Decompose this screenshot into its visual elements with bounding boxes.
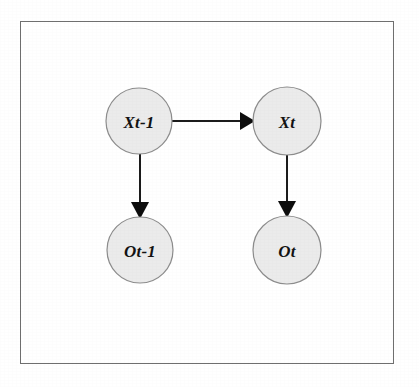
edge-x-prev-to-x-curr[interactable] (172, 112, 255, 130)
graph-canvas: Xt-1 Xt Ot-1 Ot (0, 0, 419, 387)
figure-root: Xt-1 Xt Ot-1 Ot (0, 0, 419, 387)
node-label-x-prev: Xt-1 (122, 113, 154, 132)
node-x-prev[interactable]: Xt-1 (106, 88, 172, 154)
node-o-curr[interactable]: Ot (253, 216, 321, 284)
edge-x-curr-to-o-curr[interactable] (278, 155, 296, 218)
node-o-prev[interactable]: Ot-1 (107, 217, 173, 283)
node-label-o-curr: Ot (278, 242, 296, 261)
node-label-x-curr: Xt (278, 113, 297, 132)
node-x-curr[interactable]: Xt (253, 87, 321, 155)
node-label-o-prev: Ot-1 (124, 242, 156, 261)
edge-x-prev-to-o-prev[interactable] (131, 154, 149, 219)
